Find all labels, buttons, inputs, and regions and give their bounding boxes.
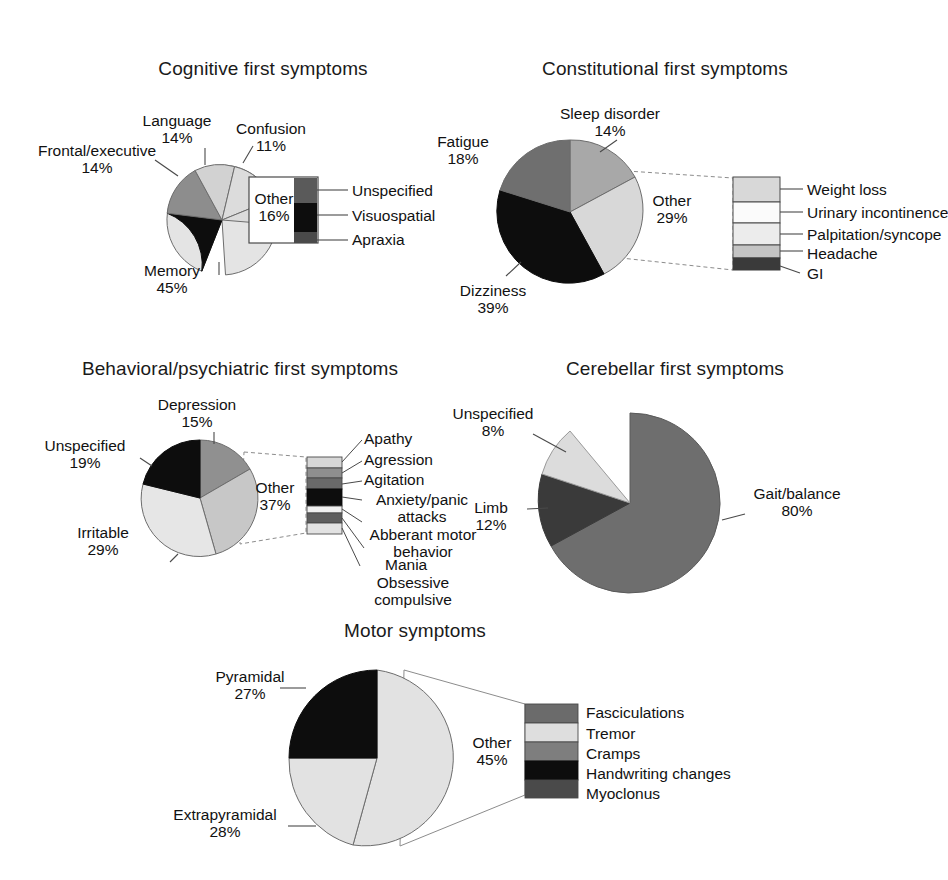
cerebellar-label-limb: Limb 12% bbox=[458, 499, 524, 533]
cognitive-slice-confusion bbox=[195, 165, 235, 220]
cerebellar-label-gait-text: Gait/balance bbox=[753, 485, 840, 502]
cognitive-breakout-seg-visuospatial bbox=[294, 203, 317, 232]
cognitive-slice-language bbox=[167, 171, 222, 221]
cognitive-breakout-label-0: Unspecified bbox=[352, 182, 433, 199]
cognitive-label-frontal-text: Frontal/executive bbox=[38, 142, 156, 159]
behavioral-breakout-seg-obsessive-compulsive bbox=[307, 523, 342, 534]
cerebellar-slice-gait-balance bbox=[551, 413, 720, 593]
motor-breakout-label-3: Handwriting changes bbox=[586, 765, 731, 782]
constitutional-label-sleep: Sleep disorder 14% bbox=[545, 105, 675, 139]
cerebellar-label-limb-pct: 12% bbox=[475, 516, 506, 533]
cognitive-other-label-text: Other bbox=[255, 190, 294, 207]
behavioral-label-unspecified-text: Unspecified bbox=[45, 437, 126, 454]
cognitive-breakout-seg-unspecified bbox=[294, 178, 317, 203]
motor-other-label-text: Other bbox=[473, 734, 512, 751]
constitutional-label-dizziness: Dizziness 39% bbox=[443, 282, 543, 316]
behavioral-breakout-label-5: Mania bbox=[385, 556, 427, 573]
cognitive-label-frontal: Frontal/executive 14% bbox=[22, 142, 172, 176]
behavioral-slice-irritable bbox=[141, 484, 216, 556]
behavioral-label-depression-text: Depression bbox=[158, 396, 236, 413]
cognitive-breakout-label-2: Apraxia bbox=[352, 231, 405, 248]
behavioral-pie-leaders bbox=[140, 432, 214, 562]
motor-label-extrapyramidal: Extrapyramidal 28% bbox=[160, 806, 290, 840]
behavioral-breakout-seg-abberant-motor-behavior bbox=[307, 506, 342, 513]
constitutional-other-label-value: 29% bbox=[656, 209, 687, 226]
motor-breakout-seg-tremor bbox=[525, 723, 578, 742]
constitutional-breakout-bar bbox=[733, 177, 780, 270]
cerebellar-label-unspecified-text: Unspecified bbox=[453, 405, 534, 422]
cerebellar-label-gait-pct: 80% bbox=[781, 502, 812, 519]
cerebellar-label-limb-text: Limb bbox=[474, 499, 508, 516]
constitutional-slice-dizziness bbox=[497, 190, 604, 283]
motor-slice-pyramidal bbox=[289, 670, 377, 758]
behavioral-breakout-label-2: Agitation bbox=[364, 471, 424, 488]
cognitive-breakout-seg-apraxia bbox=[294, 232, 317, 243]
constitutional-breakout-seg-palpitation-syncope bbox=[733, 223, 780, 245]
constitutional-breakout-seg-weight-loss bbox=[733, 177, 780, 202]
motor-other-label: Other 45% bbox=[464, 734, 520, 768]
behavioral-other-label-text: Other bbox=[256, 479, 295, 496]
constitutional-label-sleep-pct: 14% bbox=[594, 122, 625, 139]
constitutional-slice-sleep bbox=[570, 140, 635, 212]
constitutional-label-fatigue-text: Fatigue bbox=[437, 133, 489, 150]
cognitive-label-confusion-text: Confusion bbox=[236, 120, 306, 137]
panel-title-cerebellar: Cerebellar first symptoms bbox=[525, 358, 825, 380]
constitutional-breakout-label-2: Palpitation/syncope bbox=[807, 226, 941, 243]
constitutional-breakout-seg-headache bbox=[733, 245, 780, 258]
constitutional-breakout-label-3: Headache bbox=[807, 245, 878, 262]
cerebellar-pie bbox=[538, 413, 720, 593]
constitutional-breakout-seg-urinary-incontinence bbox=[733, 202, 780, 223]
behavioral-breakout-seg-mania bbox=[307, 513, 342, 523]
behavioral-breakout-seg-agression bbox=[307, 468, 342, 478]
behavioral-breakout-label-1: Agression bbox=[364, 451, 433, 468]
behavioral-label-depression: Depression 15% bbox=[142, 396, 252, 430]
behavioral-breakout-seg-apathy bbox=[307, 457, 342, 468]
motor-pie bbox=[289, 670, 453, 846]
behavioral-breakout-bar bbox=[307, 457, 342, 534]
behavioral-other-label-value: 37% bbox=[259, 496, 290, 513]
motor-breakout-bar bbox=[525, 704, 578, 798]
constitutional-label-fatigue-pct: 18% bbox=[447, 150, 478, 167]
behavioral-label-unspecified: Unspecified 19% bbox=[30, 437, 140, 471]
motor-breakout-seg-handwriting-changes bbox=[525, 761, 578, 780]
behavioral-other-label: Other 37% bbox=[249, 479, 301, 513]
motor-breakout-label-1: Tremor bbox=[586, 725, 635, 742]
behavioral-label-irritable-pct: 29% bbox=[87, 541, 118, 558]
constitutional-leader-lines bbox=[780, 189, 803, 273]
cerebellar-slice-limb bbox=[538, 474, 630, 546]
motor-label-extrapyramidal-text: Extrapyramidal bbox=[173, 806, 276, 823]
constitutional-other-label-text: Other bbox=[653, 192, 692, 209]
motor-breakout-label-2: Cramps bbox=[586, 745, 640, 762]
motor-breakout-seg-myoclonus bbox=[525, 780, 578, 798]
behavioral-label-depression-pct: 15% bbox=[181, 413, 212, 430]
panel-title-cognitive: Cognitive first symptoms bbox=[113, 58, 413, 80]
cognitive-other-label-value: 16% bbox=[258, 207, 289, 224]
motor-label-pyramidal-pct: 27% bbox=[234, 685, 265, 702]
cognitive-other-label: Other 16% bbox=[252, 190, 296, 224]
behavioral-label-irritable: Irritable 29% bbox=[58, 524, 148, 558]
constitutional-breakout-label-1: Urinary incontinence bbox=[807, 204, 948, 221]
cerebellar-label-unspecified: Unspecified 8% bbox=[438, 405, 548, 439]
constitutional-label-fatigue: Fatigue 18% bbox=[423, 133, 503, 167]
motor-breakout-label-0: Fasciculations bbox=[586, 704, 684, 721]
constitutional-slice-fatigue bbox=[500, 140, 570, 212]
constitutional-other-label: Other 29% bbox=[645, 192, 699, 226]
motor-slice-other bbox=[353, 670, 453, 846]
constitutional-breakout-label-4: GI bbox=[807, 265, 823, 282]
constitutional-pie bbox=[497, 140, 643, 283]
cognitive-label-language-text: Language bbox=[143, 112, 212, 129]
cognitive-label-memory-text: Memory bbox=[144, 262, 200, 279]
constitutional-pie-leaders bbox=[506, 140, 617, 276]
panel-title-motor: Motor symptoms bbox=[295, 620, 535, 642]
behavioral-breakout-seg-agitation bbox=[307, 478, 342, 489]
behavioral-label-irritable-text: Irritable bbox=[77, 524, 129, 541]
behavioral-label-unspecified-pct: 19% bbox=[69, 454, 100, 471]
cerebellar-label-gait: Gait/balance 80% bbox=[742, 485, 852, 519]
constitutional-breakout-label-0: Weight loss bbox=[807, 181, 887, 198]
behavioral-breakout-label-6: Obsessive compulsive bbox=[358, 574, 468, 608]
cerebellar-label-unspecified-pct: 8% bbox=[482, 422, 504, 439]
cerebellar-leaders bbox=[527, 434, 745, 520]
constitutional-label-dizziness-text: Dizziness bbox=[460, 282, 526, 299]
panel-title-constitutional: Constitutional first symptoms bbox=[495, 58, 835, 80]
